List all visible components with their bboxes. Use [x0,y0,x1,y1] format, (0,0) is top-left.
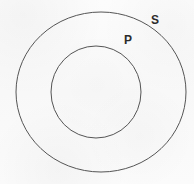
outer-circle-s [16,12,186,172]
euler-diagram-canvas: S P [0,0,194,184]
outer-circle-label-s: S [151,14,159,26]
inner-circle-label-p: P [124,34,132,46]
diagram-svg [0,0,194,184]
inner-circle-p [51,46,141,138]
